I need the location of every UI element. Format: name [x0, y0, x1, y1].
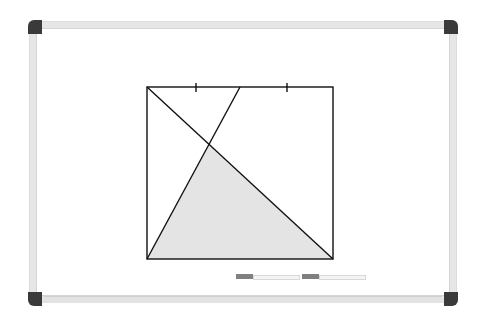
shaded-triangle — [147, 146, 333, 259]
geometry-figure — [0, 0, 488, 328]
